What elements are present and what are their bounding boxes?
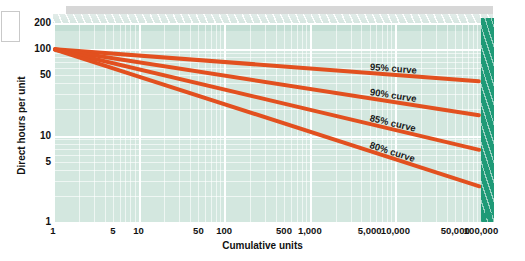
y-axis-title: Direct hours per unit bbox=[16, 61, 27, 191]
x-tick-10: 10 bbox=[133, 225, 144, 236]
y-axis-tick-labels: 151050100200 bbox=[24, 0, 51, 261]
x-tick-50: 50 bbox=[193, 225, 204, 236]
chart-3d-right-face-tip bbox=[481, 213, 494, 222]
x-axis-title: Cumulative units bbox=[0, 240, 525, 251]
x-tick-500: 500 bbox=[276, 225, 292, 236]
y-tick-50: 50 bbox=[40, 69, 51, 80]
x-tick-5: 5 bbox=[110, 225, 115, 236]
curve-line bbox=[53, 47, 481, 118]
x-tick-1: 1 bbox=[50, 225, 55, 236]
x-tick-100000: 100,000 bbox=[464, 225, 498, 236]
x-tick-1000: 1,000 bbox=[298, 225, 322, 236]
y-tick-10: 10 bbox=[40, 130, 51, 141]
x-tick-100: 100 bbox=[216, 225, 232, 236]
x-tick-5000: 5,000 bbox=[358, 225, 382, 236]
chart-3d-right-face bbox=[481, 18, 494, 222]
y-tick-100: 100 bbox=[34, 43, 51, 54]
corner-placeholder-box bbox=[1, 11, 20, 42]
chart-figure: 95% curve90% curve85% curve80% curve 151… bbox=[0, 0, 525, 261]
y-tick-200: 200 bbox=[34, 17, 51, 28]
y-tick-5: 5 bbox=[45, 156, 51, 167]
x-tick-10000: 10,000 bbox=[381, 225, 410, 236]
right-face-hatching bbox=[481, 18, 494, 222]
